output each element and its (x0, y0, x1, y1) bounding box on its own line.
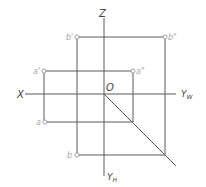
point-a-double (131, 69, 135, 73)
label-b-prime: b' (66, 33, 73, 42)
yw-axis-label: YW (181, 89, 194, 100)
label-b: b (67, 151, 72, 160)
label-a: a (36, 118, 41, 127)
label-b-double: b" (168, 33, 177, 42)
point-b (75, 153, 79, 157)
point-b-double (163, 35, 167, 39)
point-b-prime (75, 35, 79, 39)
point-a-prime (42, 69, 46, 73)
point-a (43, 120, 47, 124)
label-a-double: a" (136, 67, 145, 76)
x-axis-label: X (16, 89, 25, 100)
origin-label: O (106, 82, 114, 93)
yh-axis-label: YH (107, 172, 118, 183)
z-axis-label: Z (98, 8, 107, 19)
projection-diagram: Z X O YW YH b' b" a' a" a b (0, 0, 206, 187)
label-a-prime: a' (33, 67, 40, 76)
